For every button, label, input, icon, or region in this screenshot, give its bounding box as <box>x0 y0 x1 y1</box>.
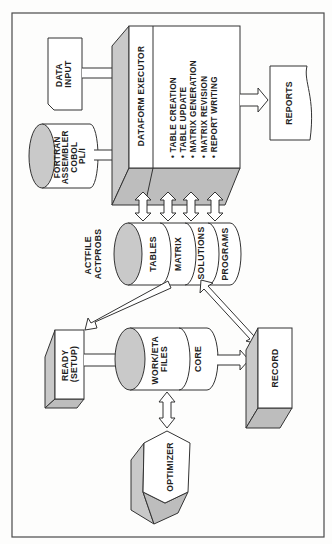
optimizer-node: OPTIMIZER <box>131 431 190 524</box>
actfile-actprobs-label: ACTFILE ACTPROBS <box>83 229 103 280</box>
ready-left-face <box>45 330 55 408</box>
work-core-cylinder: WORK/ETA FILES CORE <box>115 328 218 390</box>
work-core-end <box>115 328 145 390</box>
languages-disk-node: FORTRAN ASSEMBLER COBOL PL/I <box>29 124 98 188</box>
segment-solutions: SOLUTIONS <box>196 227 206 280</box>
segment-matrix: MATRIX <box>173 237 183 271</box>
data-input-label: DATA INPUT <box>54 60 73 88</box>
ready-setup-node: READY (SETUP) <box>45 330 84 408</box>
arrow-matrix-to-ready <box>85 281 171 330</box>
record-node: RECORD <box>246 328 292 428</box>
system-flow-diagram: DATA INPUT FORTRAN ASSEMBLER COBOL PL/I … <box>0 0 332 544</box>
double-arrow-workfiles-optimizer <box>159 392 175 428</box>
arrow-core-to-record <box>217 350 249 370</box>
reports-label: REPORTS <box>284 81 294 125</box>
ready-label: READY (SETUP) <box>60 346 79 382</box>
core-label: CORE <box>193 346 203 372</box>
executor-title: DATAFORM EXECUTOR <box>136 46 146 146</box>
segment-tables: TABLES <box>148 236 158 272</box>
reports-node: REPORTS <box>270 66 312 140</box>
actfile-cylinder-stack: TABLES MATRIX SOLUTIONS PROGRAMS <box>114 223 241 285</box>
optimizer-label: OPTIMIZER <box>165 442 175 492</box>
file-stack-end <box>114 223 142 285</box>
languages-cylinder-end <box>29 124 55 188</box>
segment-programs: PROGRAMS <box>220 227 230 280</box>
dataform-executor-node: DATAFORM EXECUTOR • TABLE CREATION • TAB… <box>112 26 240 205</box>
record-label: RECORD <box>270 348 280 387</box>
arrow-executor-to-reports <box>240 88 268 112</box>
data-input-node: DATA INPUT <box>48 38 82 110</box>
